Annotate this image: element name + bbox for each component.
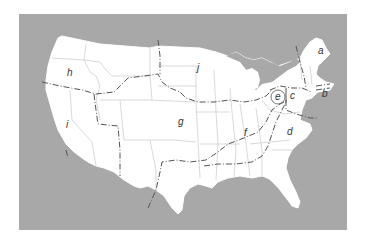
region-label-d: d — [287, 126, 293, 137]
region-label-e: e — [275, 91, 281, 102]
region-label-a: a — [318, 45, 324, 56]
region-label-b: b — [322, 88, 328, 99]
region-label-h: h — [67, 67, 73, 78]
us-regions-map: a b c d e f g h i j — [0, 0, 380, 243]
region-label-g: g — [178, 116, 184, 127]
region-label-c: c — [290, 90, 295, 101]
